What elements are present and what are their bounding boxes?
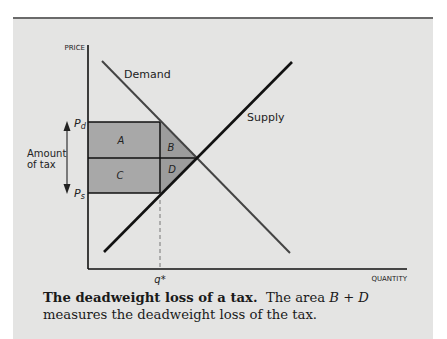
caption-text-end: measures the deadweight loss of the tax. bbox=[43, 307, 317, 322]
region-a-label: A bbox=[117, 135, 125, 146]
demand-label: Demand bbox=[124, 68, 171, 81]
region-c-label: C bbox=[117, 170, 124, 181]
tax-arrow-down-icon bbox=[64, 184, 71, 194]
caption-math: B + D bbox=[329, 290, 369, 305]
y-axis-label: PRICE bbox=[65, 44, 85, 52]
caption-title: The deadweight loss of a tax bbox=[43, 290, 253, 305]
tax-arrow-up-icon bbox=[64, 121, 71, 131]
caption-title-period: . bbox=[253, 290, 258, 305]
region-b-label: B bbox=[168, 142, 175, 153]
region-c bbox=[88, 158, 160, 193]
supply-label: Supply bbox=[247, 111, 285, 124]
region-d-label: D bbox=[168, 164, 176, 175]
caption-text-start: The area bbox=[266, 290, 329, 305]
pd-label: Pd bbox=[74, 117, 87, 131]
x-axis-label: QUANTITY bbox=[371, 275, 407, 283]
tax-label-line2: of tax bbox=[27, 159, 56, 170]
ps-label: Ps bbox=[74, 187, 85, 201]
q-star-label: q* bbox=[154, 274, 165, 285]
figure-caption: The deadweight loss of a tax. The area B… bbox=[43, 289, 423, 323]
tax-label-line1: Amount bbox=[27, 148, 66, 159]
